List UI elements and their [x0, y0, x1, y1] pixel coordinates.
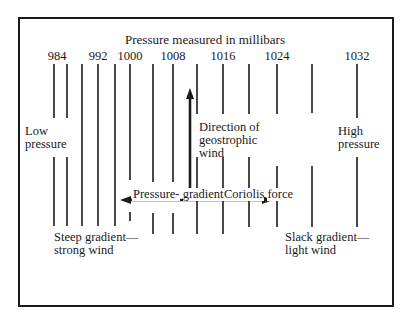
- isobar-diagram: Pressure measured in millibars 984992100…: [0, 0, 410, 326]
- geostrophic-line-3: wind: [199, 147, 260, 160]
- pgf-line-1: Pressure-: [132, 188, 180, 201]
- coriolis-line-2: force: [267, 188, 293, 201]
- slack-line-2: light wind: [285, 244, 369, 257]
- low-pressure-line-2: pressure: [25, 138, 67, 151]
- geostrophic-wind-label: Direction of geostrophic wind: [199, 121, 260, 160]
- low-pressure-label: Low pressure: [25, 125, 67, 151]
- isobar-lines: [0, 0, 410, 326]
- high-pressure-label: High pressure: [338, 125, 380, 151]
- geostrophic-wind-arrow-icon: [186, 88, 194, 200]
- coriolis-force-label: Coriolis force: [224, 186, 293, 201]
- steep-line-2: strong wind: [54, 244, 138, 257]
- steep-gradient-label: Steep gradient— strong wind: [54, 231, 138, 257]
- slack-gradient-label: Slack gradient— light wind: [285, 231, 369, 257]
- high-pressure-line-2: pressure: [338, 138, 380, 151]
- coriolis-line-1: Coriolis: [224, 188, 264, 201]
